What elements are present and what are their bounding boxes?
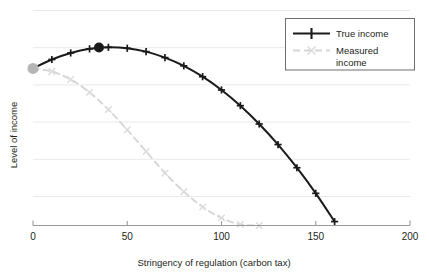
legend-label-true-income: True income — [336, 28, 388, 39]
chart-legend[interactable]: True income Measured income — [286, 19, 415, 71]
x-axis-tick-label: 0 — [30, 231, 36, 242]
x-axis-tick-label: 150 — [307, 231, 324, 242]
x-axis-tick-label: 50 — [122, 231, 134, 242]
y-axis-label: Level of income — [8, 102, 19, 169]
x-axis-label: Stringency of regulation (carbon tax) — [137, 257, 290, 268]
x-axis-tick-label: 100 — [213, 231, 230, 242]
chart-figure: 050100150200 Stringency of regulation (c… — [0, 0, 429, 279]
legend-label-measured-income-line1: Measured — [336, 45, 378, 56]
legend-label-measured-income-line2: income — [336, 57, 367, 68]
optimum-point — [94, 43, 104, 53]
x-axis-tick-label: 200 — [402, 231, 419, 242]
income-vs-regulation-chart: 050100150200 Stringency of regulation (c… — [0, 0, 429, 279]
laissez-faire-point — [28, 63, 39, 74]
